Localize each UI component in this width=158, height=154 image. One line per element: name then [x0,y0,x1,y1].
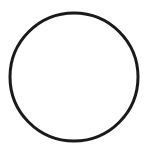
canvas [0,0,158,154]
circle-outline [10,13,138,141]
